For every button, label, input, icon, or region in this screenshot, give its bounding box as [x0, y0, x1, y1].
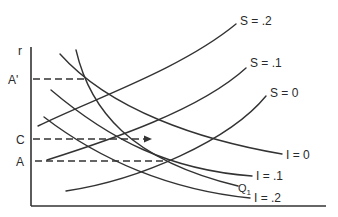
arrow-right-icon	[144, 136, 152, 143]
curve-i-02	[44, 117, 250, 198]
label-i-0: I = 0	[286, 148, 310, 162]
marker-c-label: C	[16, 133, 25, 147]
label-q1: Q1	[238, 182, 252, 197]
marker-a-label: A	[16, 155, 24, 169]
label-i-02: I = .2	[254, 191, 281, 205]
label-i-01: I = .1	[256, 169, 283, 183]
marker-a-prime-label: A'	[8, 73, 18, 87]
y-axis-label: r	[18, 44, 22, 58]
diagram: r A' C A S = .2 S = .1 S = 0 I = 0 I = .…	[0, 0, 338, 217]
curve-s-02	[38, 24, 236, 126]
label-s-02: S = .2	[240, 14, 272, 28]
label-s-01: S = .1	[250, 56, 282, 70]
label-s-0: S = 0	[270, 86, 299, 100]
